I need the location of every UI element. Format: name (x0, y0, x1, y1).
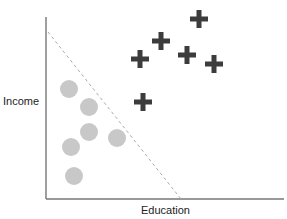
plus-marker (190, 10, 208, 28)
circle-marker (65, 167, 83, 185)
circle-marker (80, 123, 98, 141)
y-axis-label: Income (3, 95, 39, 107)
circle-markers (60, 80, 126, 185)
plus-marker (131, 50, 149, 68)
circle-marker (108, 129, 126, 147)
scatter-plot (0, 0, 287, 219)
plus-marker (178, 46, 196, 64)
plus-marker (152, 32, 170, 50)
plus-marker (134, 93, 152, 111)
circle-marker (80, 98, 98, 116)
x-axis-label: Education (141, 204, 190, 216)
circle-marker (62, 138, 80, 156)
circle-marker (60, 80, 78, 98)
plus-markers (131, 10, 223, 111)
plus-marker (205, 55, 223, 73)
